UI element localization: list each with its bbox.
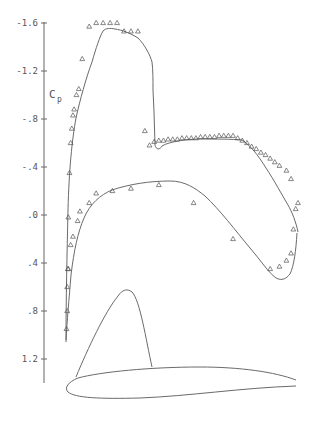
triangle-marker-icon [80, 56, 85, 60]
triangle-marker-icon [217, 133, 222, 137]
triangle-marker-icon [231, 133, 236, 137]
airfoil-profile [66, 367, 296, 398]
triangle-marker-icon [203, 134, 208, 138]
triangle-marker-icon [78, 209, 83, 213]
triangle-marker-icon [94, 191, 99, 195]
y-tick-label: -1.6 [16, 18, 38, 28]
triangle-marker-icon [152, 139, 157, 143]
triangle-marker-icon [226, 133, 231, 137]
triangle-marker-icon [156, 138, 161, 142]
triangle-marker-icon [231, 236, 236, 240]
triangle-marker-icon [170, 137, 175, 141]
triangle-marker-icon [184, 136, 189, 140]
y-tick-label: -1.2 [16, 66, 38, 76]
triangle-marker-icon [161, 138, 166, 142]
triangle-marker-icon [284, 258, 289, 262]
triangle-marker-icon [129, 29, 134, 33]
triangle-marker-icon [72, 107, 77, 111]
y-axis-title-sub: p [57, 95, 62, 104]
triangle-marker-icon [129, 186, 134, 190]
y-axis-title: C p [49, 88, 62, 104]
y-tick-label: .4 [27, 258, 38, 268]
triangle-marker-icon [71, 113, 76, 117]
triangle-marker-icon [180, 136, 185, 140]
y-tick-label: -.4 [22, 162, 38, 172]
y-axis-title-c: C [49, 88, 56, 101]
triangle-marker-icon [115, 20, 120, 24]
cp-chart: -1.6-1.2-.8-.4.0.4.81.2 C p [0, 0, 316, 422]
triangle-marker-icon [94, 20, 99, 24]
triangle-marker-icon [268, 156, 273, 160]
triangle-marker-icon [277, 163, 282, 167]
y-axis: -1.6-1.2-.8-.4.0.4.81.2 [16, 18, 47, 383]
lower-surface-curve [66, 181, 297, 342]
triangle-marker-icon [142, 128, 147, 132]
triangle-marker-icon [221, 133, 226, 137]
triangle-marker-icon [284, 168, 289, 172]
triangle-marker-icon [212, 134, 217, 138]
triangle-marker-icon [198, 134, 203, 138]
triangle-marker-icon [87, 24, 92, 28]
triangle-marker-icon [65, 308, 70, 312]
triangle-marker-icon [75, 218, 80, 222]
triangle-marker-icon [166, 137, 171, 141]
triangle-marker-icon [296, 200, 301, 204]
triangle-marker-icon [272, 160, 277, 164]
triangle-marker-icon [289, 251, 294, 255]
y-tick-label: -.8 [22, 114, 38, 124]
triangle-marker-icon [136, 29, 141, 33]
triangle-marker-icon [87, 200, 92, 204]
triangle-marker-icon [207, 134, 212, 138]
triangle-marker-icon [289, 176, 294, 180]
triangle-marker-icon [277, 264, 282, 268]
triangle-marker-icon [268, 266, 273, 270]
upper-surface-curve [66, 28, 298, 340]
triangle-marker-icon [258, 150, 263, 154]
triangle-marker-icon [108, 20, 113, 24]
triangle-marker-icon [101, 20, 106, 24]
experiment-markers [64, 20, 300, 330]
cp-plot-svg: -1.6-1.2-.8-.4.0.4.81.2 C p [0, 0, 316, 422]
triangle-marker-icon [69, 126, 74, 130]
boundary-layer-curve [76, 290, 152, 377]
triangle-marker-icon [74, 92, 79, 96]
y-tick-label: .8 [27, 306, 38, 316]
triangle-marker-icon [191, 200, 196, 204]
y-tick-label: 1.2 [22, 354, 38, 364]
triangle-marker-icon [291, 227, 296, 231]
triangle-marker-icon [76, 86, 81, 90]
triangle-marker-icon [71, 234, 76, 238]
y-tick-label: .0 [27, 210, 38, 220]
triangle-marker-icon [65, 284, 70, 288]
triangle-marker-icon [68, 242, 73, 246]
triangle-marker-icon [175, 137, 180, 141]
triangle-marker-icon [156, 182, 161, 186]
triangle-marker-icon [147, 143, 152, 147]
triangle-marker-icon [293, 206, 298, 210]
